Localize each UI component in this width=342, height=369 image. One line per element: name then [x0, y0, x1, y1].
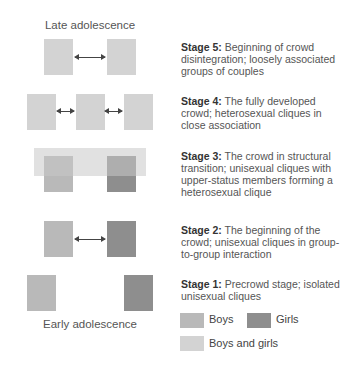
- early-adolescence-label: Early adolescence: [20, 318, 160, 330]
- stage4-clique-2: [76, 94, 105, 130]
- stage4-description: Stage 4: The fully developed crowd; hete…: [181, 95, 341, 131]
- stage5-group-left: [44, 39, 73, 75]
- stage4-title: Stage 4:: [181, 95, 222, 107]
- stage5-description: Stage 5: Beginning of crowd disintegrati…: [181, 41, 341, 77]
- stage4-arrow-1: [57, 111, 74, 112]
- stage4-clique-1: [27, 94, 56, 130]
- legend-boys-label: Boys: [209, 313, 233, 325]
- late-adolescence-label: Late adolescence: [20, 19, 160, 31]
- stage1-description: Stage 1: Precrowd stage; isolated unisex…: [181, 278, 341, 302]
- legend-mixed-swatch: [180, 336, 204, 351]
- stage2-title: Stage 2:: [181, 224, 222, 236]
- stage2-interaction-arrow: [75, 239, 105, 240]
- legend-girls-swatch: [247, 313, 271, 328]
- stage3-description: Stage 3: The crowd in structural transit…: [181, 150, 341, 198]
- stage5-title: Stage 5:: [181, 41, 222, 53]
- legend-girls-label: Girls: [276, 313, 299, 325]
- stage5-interaction-arrow: [75, 57, 105, 58]
- legend-mixed-label: Boys and girls: [209, 337, 278, 349]
- legend-boys-swatch: [180, 313, 204, 328]
- stage1-boys-clique: [27, 275, 56, 311]
- stage3-title: Stage 3:: [181, 150, 222, 162]
- stage2-girls-clique: [107, 221, 136, 257]
- stage1-girls-clique: [124, 275, 153, 311]
- stage4-arrow-2: [105, 111, 122, 112]
- stage1-title: Stage 1:: [181, 278, 222, 290]
- stage3-heterosexual-band: [34, 148, 146, 176]
- stage2-boys-clique: [44, 221, 73, 257]
- stage2-description: Stage 2: The beginning of the crowd; uni…: [181, 224, 341, 260]
- stage5-group-right: [107, 39, 136, 75]
- stage4-clique-3: [124, 94, 153, 130]
